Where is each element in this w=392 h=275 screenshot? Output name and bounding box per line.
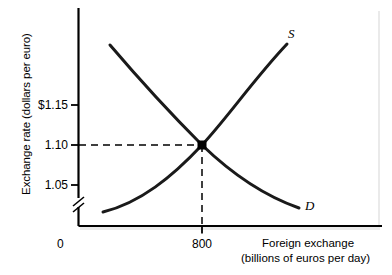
y-tick-label-1-05: 1.05: [18, 178, 68, 192]
x-axis-title-line2: (billions of euros per day): [218, 251, 392, 265]
origin-label: 0: [57, 237, 64, 251]
x-tick-label-800: 800: [172, 237, 232, 251]
equilibrium-point-marker: [198, 141, 207, 150]
demand-curve-label: D: [305, 198, 314, 214]
y-tick-label-1-15: $1.15: [18, 98, 68, 112]
x-axis-title-line1: Foreign exchange: [228, 236, 388, 250]
y-tick-label-1-10: 1.10: [18, 138, 68, 152]
figure-container: Exchange rate (dollars per euro) $1.15 1…: [0, 0, 392, 275]
supply-curve-label: S: [288, 26, 295, 42]
plot-panel: [78, 8, 378, 227]
